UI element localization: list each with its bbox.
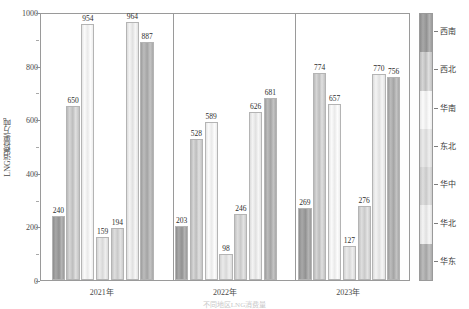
bar-东北-2023年: 127 — [343, 12, 356, 280]
bar-华中-2022年: 246 — [234, 12, 247, 280]
bar-value-label: 887 — [141, 33, 152, 41]
legend-color-strip — [419, 13, 433, 281]
y-tick-label: 800 — [16, 62, 38, 71]
plot-area: 2406509541591949648872035285899824662668… — [40, 13, 410, 281]
bar-西北-2022年: 528 — [190, 12, 203, 280]
bar-西北-2021年: 650 — [66, 12, 79, 280]
bar-rect — [126, 22, 139, 280]
legend-label: 华中 — [440, 179, 456, 191]
bar-rect — [264, 98, 277, 281]
y-tick-label: 0 — [16, 277, 38, 286]
bar-rect — [387, 77, 400, 280]
y-axis-title: LNG消费量/万吨 — [2, 118, 16, 177]
legend-tick-icon — [434, 223, 438, 224]
bar-西南-2021年: 240 — [52, 12, 65, 280]
bar-value-label: 756 — [388, 68, 399, 76]
group-divider-2 — [295, 14, 296, 280]
bar-rect — [140, 42, 153, 280]
bar-value-label: 528 — [191, 130, 202, 138]
bar-value-label: 98 — [222, 245, 230, 253]
bar-rect — [205, 122, 218, 280]
legend-swatch-西南 — [420, 14, 432, 52]
bar-华东-2022年: 681 — [264, 12, 277, 280]
legend-label: 华北 — [440, 218, 456, 230]
bar-value-label: 269 — [299, 199, 310, 207]
bar-value-label: 194 — [112, 219, 123, 227]
bar-rect — [66, 106, 79, 280]
legend-tick-icon — [434, 31, 438, 32]
bar-华北-2021年: 964 — [126, 12, 139, 280]
legend-swatch-东北 — [420, 129, 432, 167]
y-minor-tickmark — [36, 93, 39, 94]
bar-value-label: 681 — [265, 89, 276, 97]
bar-rect — [175, 226, 188, 280]
bar-value-label: 159 — [97, 228, 108, 236]
legend-tick-icon — [434, 261, 438, 262]
bar-华南-2021年: 954 — [81, 12, 94, 280]
y-minor-tickmark — [36, 201, 39, 202]
bar-西南-2022年: 203 — [175, 12, 188, 280]
bar-value-label: 626 — [250, 103, 261, 111]
y-axis-tick-labels: 02004006008001000 — [16, 0, 38, 308]
bar-value-label: 964 — [127, 13, 138, 21]
legend-tick-icon — [434, 146, 438, 147]
legend-label: 西南 — [440, 26, 456, 38]
bar-value-label: 246 — [235, 205, 246, 213]
bar-西南-2023年: 269 — [298, 12, 311, 280]
bar-value-label: 770 — [373, 65, 384, 73]
bar-rect — [343, 246, 356, 280]
bar-value-label: 657 — [329, 95, 340, 103]
y-minor-tickmark — [36, 40, 39, 41]
legend-swatch-华北 — [420, 205, 432, 243]
bar-rect — [234, 214, 247, 280]
legend-label: 华南 — [440, 103, 456, 115]
bar-华南-2022年: 589 — [205, 12, 218, 280]
bar-华北-2023年: 770 — [372, 12, 385, 280]
y-tick-label: 1000 — [16, 9, 38, 18]
bar-rect — [358, 206, 371, 280]
legend-label: 西北 — [440, 64, 456, 76]
legend-tick-icon — [434, 184, 438, 185]
x-axis-label-2021年: 2021年 — [90, 286, 114, 297]
legend-tick-icon — [434, 108, 438, 109]
y-tickmark — [36, 281, 40, 282]
group-divider-1 — [173, 14, 174, 280]
y-tick-label: 600 — [16, 116, 38, 125]
bar-value-label: 954 — [82, 15, 93, 23]
bar-rect — [111, 228, 124, 280]
y-minor-tickmark — [36, 147, 39, 148]
bar-rect — [81, 24, 94, 280]
bar-value-label: 240 — [53, 207, 64, 215]
bar-华南-2023年: 657 — [328, 12, 341, 280]
bar-value-label: 127 — [344, 237, 355, 245]
x-axis-label-2022年: 2022年 — [213, 286, 237, 297]
legend-swatch-西北 — [420, 52, 432, 90]
bar-华中-2021年: 194 — [111, 12, 124, 280]
bar-value-label: 774 — [314, 64, 325, 72]
bar-东北-2021年: 159 — [96, 12, 109, 280]
bar-rect — [328, 104, 341, 280]
x-axis-label-2023年: 2023年 — [336, 286, 360, 297]
bar-rect — [249, 112, 262, 280]
bar-华东-2023年: 756 — [387, 12, 400, 280]
bar-华北-2022年: 626 — [249, 12, 262, 280]
bar-rect — [372, 74, 385, 280]
bar-rect — [298, 208, 311, 280]
bar-value-label: 276 — [359, 197, 370, 205]
bar-rect — [190, 139, 203, 281]
bar-华中-2023年: 276 — [358, 12, 371, 280]
bar-rect — [96, 237, 109, 280]
bar-西北-2023年: 774 — [313, 12, 326, 280]
y-tick-label: 400 — [16, 169, 38, 178]
legend-tick-icon — [434, 69, 438, 70]
bar-value-label: 203 — [176, 217, 187, 225]
bar-rect — [219, 254, 232, 280]
legend-label: 东北 — [440, 141, 456, 153]
bar-rect — [313, 73, 326, 280]
y-minor-tickmark — [36, 254, 39, 255]
figure-caption: 不同地区LNG消费量 — [0, 299, 469, 309]
bar-value-label: 589 — [206, 113, 217, 121]
legend-swatch-华南 — [420, 91, 432, 129]
legend-swatch-华东 — [420, 244, 432, 281]
